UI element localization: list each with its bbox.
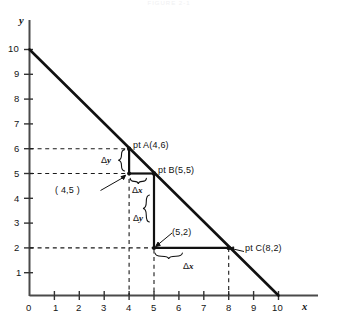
brace-delta-y-upper	[118, 150, 124, 171]
label-point-a: pt A(4,6)	[133, 141, 169, 150]
x-tick-label-4: 4	[126, 303, 132, 313]
leader-ptC-head	[229, 247, 234, 251]
x-tick-label-10: 10	[272, 303, 283, 313]
x-tick-label-3: 3	[101, 303, 107, 313]
x-tick-label-8: 8	[226, 303, 232, 313]
x-tick-label-0: 0	[26, 303, 32, 313]
x-tick-label-5: 5	[151, 303, 157, 313]
brace-delta-x-lower	[155, 253, 182, 259]
label-coord-5-2: (5,2)	[172, 228, 192, 237]
x-tick-label-7: 7	[201, 303, 207, 313]
delta-y-var: y	[107, 155, 111, 165]
x-axis-label: x	[302, 302, 307, 313]
label-coord-4-5: ( 4,5 )	[55, 186, 80, 195]
label-delta-y-lower: Δy	[133, 214, 143, 223]
y-tick-label-3: 3	[14, 218, 20, 228]
brace-delta-x-upper	[130, 178, 146, 184]
axes-group	[30, 20, 319, 296]
delta-y-var: y	[139, 213, 143, 223]
y-tick-label-1: 1	[16, 268, 22, 278]
y-tick-label-5: 5	[14, 169, 20, 179]
point-4-5	[127, 172, 131, 176]
x-tick-label-9: 9	[251, 303, 257, 313]
leader-4-5	[101, 177, 126, 191]
leader-5-2	[158, 233, 173, 245]
y-axis-label: y	[19, 16, 24, 27]
y-tick-label-4: 4	[14, 194, 20, 204]
plot-canvas	[0, 0, 338, 325]
point-A	[127, 147, 131, 151]
x-tick-label-1: 1	[53, 303, 59, 313]
x-tick-label-2: 2	[76, 303, 82, 313]
x-tick-label-6: 6	[176, 303, 182, 313]
y-tick-label-6: 6	[14, 144, 20, 154]
y-tick-label-8: 8	[14, 94, 20, 104]
y-tick-label-9: 9	[14, 69, 20, 79]
label-point-b: pt B(5,5)	[158, 166, 194, 175]
delta-x-var: x	[138, 185, 143, 195]
point-B	[152, 171, 156, 175]
y-tick-label-10: 10	[8, 44, 19, 54]
y-tick-label-7: 7	[14, 119, 20, 129]
brace-delta-y-lower	[143, 195, 149, 222]
label-point-c: pt C(8,2)	[245, 244, 282, 253]
label-delta-x-upper: Δx	[132, 186, 143, 195]
figure-container: FIGURE 2-1	[0, 0, 338, 325]
y-tick-label-2: 2	[14, 243, 20, 253]
label-delta-x-lower: Δx	[183, 262, 194, 271]
label-delta-y-upper: Δy	[101, 156, 111, 165]
delta-x-var: x	[189, 261, 194, 271]
